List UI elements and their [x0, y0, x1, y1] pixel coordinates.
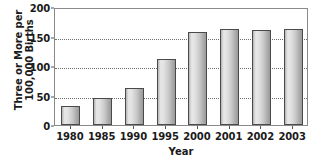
y-axis-ticks: 050100150200: [22, 0, 50, 135]
x-tick-mark: [229, 126, 230, 129]
x-tick-label: 1985: [88, 131, 115, 142]
x-tick-mark: [133, 126, 134, 129]
y-tick-label: 150: [22, 32, 50, 43]
bar[interactable]: [188, 32, 207, 125]
bar[interactable]: [93, 98, 112, 125]
bar[interactable]: [125, 88, 144, 125]
x-tick-label: 2000: [183, 131, 210, 142]
x-tick-mark: [165, 126, 166, 129]
x-tick-label: 2002: [247, 131, 274, 142]
x-tick-label: 1990: [120, 131, 147, 142]
bar[interactable]: [284, 29, 303, 125]
bar[interactable]: [220, 29, 239, 125]
y-tick-label: 100: [22, 62, 50, 73]
x-tick-label: 2001: [215, 131, 242, 142]
y-tick-label: 0: [22, 121, 50, 132]
x-axis-title: Year: [54, 146, 308, 157]
x-tick-mark: [102, 126, 103, 129]
x-tick-label: 2003: [279, 131, 306, 142]
plot-area: [54, 8, 308, 126]
y-tick-label: 200: [22, 3, 50, 14]
bar-series: [55, 9, 307, 125]
bar[interactable]: [252, 30, 271, 125]
x-axis-ticks: 19801985199019952000200120022003: [54, 126, 308, 146]
x-tick-label: 1995: [152, 131, 179, 142]
x-tick-mark: [197, 126, 198, 129]
y-tick-label: 50: [22, 91, 50, 102]
x-tick-mark: [70, 126, 71, 129]
bar-chart: Three or More per 100,000 Births 0501001…: [0, 0, 315, 165]
x-tick-mark: [260, 126, 261, 129]
x-tick-mark: [292, 126, 293, 129]
x-tick-label: 1980: [56, 131, 83, 142]
bar[interactable]: [157, 59, 176, 125]
bar[interactable]: [61, 106, 80, 125]
